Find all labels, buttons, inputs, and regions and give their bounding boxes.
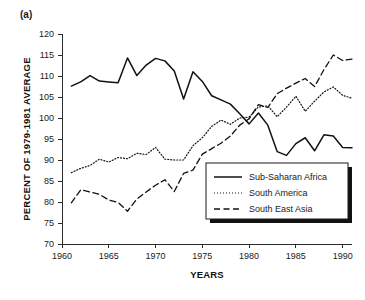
x-tick-label: 1965 xyxy=(99,251,119,261)
line-chart: 707580859095100105110115120 196019651970… xyxy=(0,0,365,300)
legend-label: South America xyxy=(249,188,308,198)
y-tick-label: 75 xyxy=(44,218,54,228)
y-tick-label: 110 xyxy=(40,71,54,81)
x-axis-ticks: 1960196519701975198019851990 xyxy=(52,244,353,261)
legend-label: Sub-Saharan Africa xyxy=(249,172,327,182)
y-tick-label: 100 xyxy=(39,113,54,123)
y-tick-label: 85 xyxy=(44,176,54,186)
x-tick-label: 1970 xyxy=(146,251,166,261)
y-axis-ticks: 707580859095100105110115120 xyxy=(39,29,62,249)
x-tick-label: 1975 xyxy=(192,251,212,261)
x-axis-title: YEARS xyxy=(190,269,224,280)
chart-figure: (a) 707580859095100105110115120 19601965… xyxy=(0,0,365,300)
legend-label: South East Asia xyxy=(249,204,313,214)
x-tick-label: 1960 xyxy=(52,251,72,261)
y-tick-label: 95 xyxy=(44,134,54,144)
y-tick-label: 115 xyxy=(40,50,54,60)
y-tick-label: 80 xyxy=(44,197,54,207)
chart-legend: Sub-Saharan AfricaSouth AmericaSouth Eas… xyxy=(206,163,352,223)
x-tick-label: 1980 xyxy=(239,251,259,261)
x-tick-label: 1990 xyxy=(333,251,353,261)
y-tick-label: 120 xyxy=(39,29,54,39)
x-tick-label: 1985 xyxy=(286,251,306,261)
y-tick-label: 70 xyxy=(44,239,54,249)
y-axis-title: PERCENT OF 1979-1981 AVERAGE xyxy=(21,57,32,220)
series-line-south-america xyxy=(71,87,352,173)
y-tick-label: 105 xyxy=(39,92,54,102)
y-tick-label: 90 xyxy=(44,155,54,165)
